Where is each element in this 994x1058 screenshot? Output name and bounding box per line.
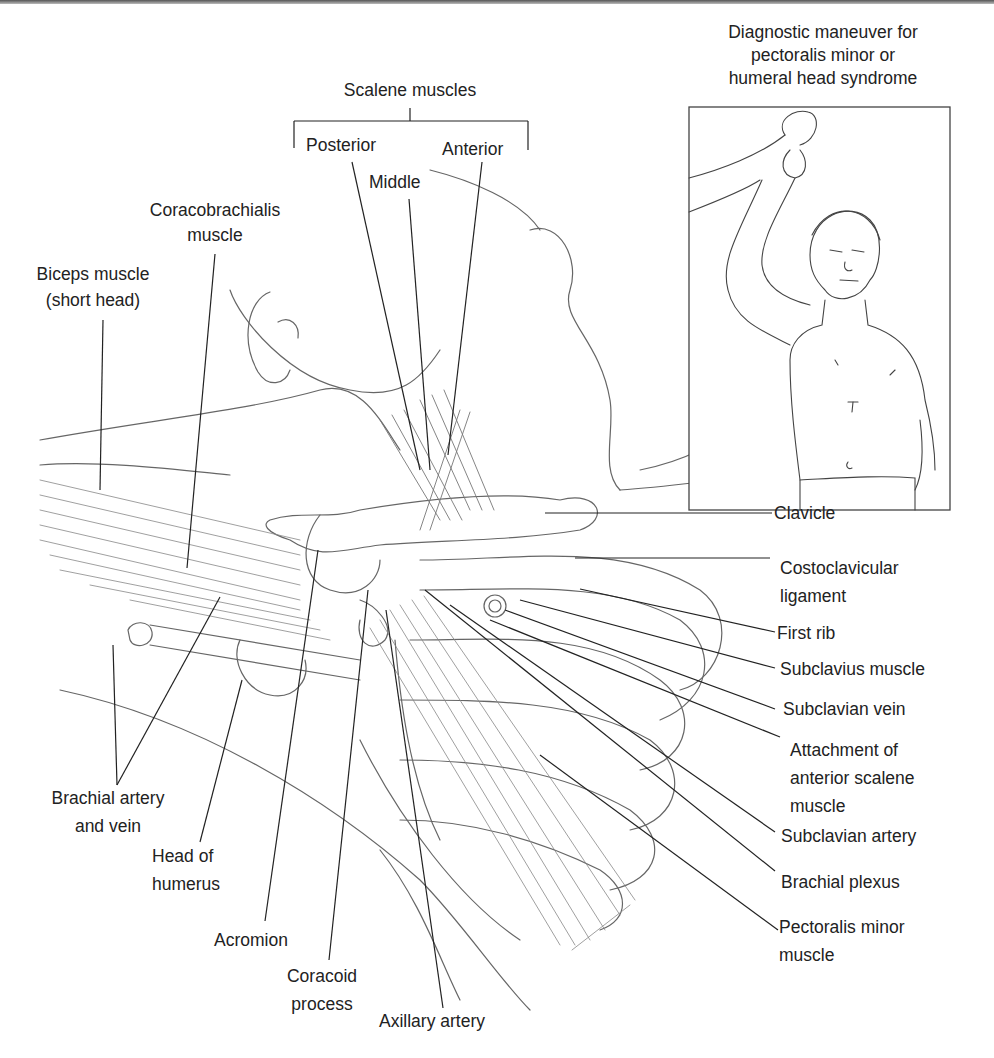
subclavian-vein-label: Subclavian vein bbox=[783, 699, 906, 720]
inset-panel bbox=[689, 107, 950, 510]
head-of-humerus-label: Head of humerus bbox=[152, 846, 220, 895]
brachial-line-2: and vein bbox=[28, 816, 188, 837]
scalene-muscles-label: Scalene muscles bbox=[320, 80, 500, 101]
inset-caption-line-1: Diagnostic maneuver for bbox=[694, 22, 952, 43]
acromion-label: Acromion bbox=[214, 930, 288, 951]
inset-caption-line-2: pectoralis minor or bbox=[694, 45, 952, 66]
pectoralis-minor-label: Pectoralis minor muscle bbox=[779, 917, 904, 966]
brachial-artery-vein-label: Brachial artery and vein bbox=[28, 788, 188, 837]
inset-caption-line-3: humeral head syndrome bbox=[694, 68, 952, 89]
inset-caption: Diagnostic maneuver for pectoralis minor… bbox=[694, 22, 952, 89]
subclavius-label: Subclavius muscle bbox=[780, 659, 925, 680]
clavicle-label: Clavicle bbox=[774, 503, 835, 524]
biceps-label: Biceps muscle (short head) bbox=[18, 264, 168, 311]
scalene-posterior-label: Posterior bbox=[306, 135, 376, 156]
coracoid-line-2: process bbox=[276, 994, 368, 1015]
costoclavicular-line-1: Costoclavicular bbox=[780, 558, 899, 579]
brachial-plexus-label: Brachial plexus bbox=[781, 872, 900, 893]
brachial-line-1: Brachial artery bbox=[28, 788, 188, 809]
axillary-artery-label: Axillary artery bbox=[379, 1011, 485, 1032]
attachment-line-3: muscle bbox=[790, 796, 915, 817]
attachment-line-2: anterior scalene bbox=[790, 768, 915, 789]
costoclavicular-label: Costoclavicular ligament bbox=[780, 558, 899, 607]
coracoid-line-1: Coracoid bbox=[276, 966, 368, 987]
coracoid-process-label: Coracoid process bbox=[276, 966, 368, 1015]
coracobrachialis-line-1: Coracobrachialis bbox=[120, 200, 310, 221]
scalene-middle-label: Middle bbox=[369, 172, 421, 193]
coracobrachialis-line-2: muscle bbox=[120, 225, 310, 246]
pectoralis-line-1: Pectoralis minor bbox=[779, 917, 904, 938]
biceps-line-1: Biceps muscle bbox=[18, 264, 168, 285]
attachment-anterior-scalene-label: Attachment of anterior scalene muscle bbox=[790, 740, 915, 817]
scalene-anterior-label: Anterior bbox=[442, 139, 503, 160]
first-rib-label: First rib bbox=[777, 623, 835, 644]
costoclavicular-line-2: ligament bbox=[780, 586, 899, 607]
ear-outline bbox=[248, 292, 290, 383]
biceps-line-2: (short head) bbox=[18, 290, 168, 311]
humerus-line-2: humerus bbox=[152, 874, 220, 895]
pectoralis-line-2: muscle bbox=[779, 945, 904, 966]
coracobrachialis-label: Coracobrachialis muscle bbox=[120, 200, 310, 246]
humerus-line-1: Head of bbox=[152, 846, 220, 867]
subclavian-artery-label: Subclavian artery bbox=[781, 826, 916, 847]
attachment-line-1: Attachment of bbox=[790, 740, 915, 761]
